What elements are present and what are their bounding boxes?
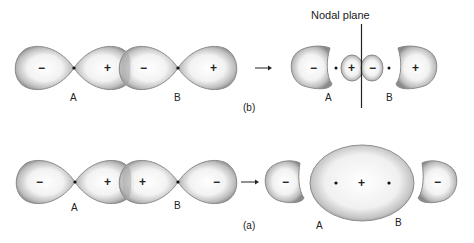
nodal-plane-label: Nodal plane	[311, 9, 370, 21]
sign: +	[104, 175, 111, 189]
atom-label-b: B	[174, 92, 181, 103]
sign: +	[358, 176, 365, 190]
nucleus-b	[387, 181, 390, 184]
sign: +	[139, 175, 146, 189]
nucleus-b	[176, 180, 179, 183]
sign: +	[104, 61, 111, 75]
sign: +	[348, 61, 355, 75]
panel-b-result: Nodal plane − + − + A B (b)	[243, 9, 437, 113]
atom-label-b: B	[174, 200, 181, 211]
nucleus-a	[335, 67, 338, 70]
nucleus-b	[176, 66, 179, 69]
lobe-a-left	[16, 160, 75, 203]
sign: −	[213, 175, 220, 189]
panel-b-input: − + − + A B	[15, 46, 237, 103]
panel-label-a: (a)	[243, 220, 255, 231]
lobe-b-right	[178, 46, 237, 89]
arrow-right-icon	[241, 180, 259, 185]
sign: +	[210, 61, 217, 75]
lobe-b-right	[178, 160, 237, 203]
nucleus-a	[334, 181, 337, 184]
panel-label-b: (b)	[243, 102, 255, 113]
sign: −	[38, 61, 45, 75]
sign: −	[140, 61, 147, 75]
atom-label-a: A	[70, 92, 77, 103]
panel-a-input: − + + − A B	[16, 160, 237, 213]
sign: −	[36, 175, 43, 189]
nucleus-b	[388, 67, 391, 70]
atom-label-b: B	[395, 217, 402, 228]
nucleus-a	[73, 180, 76, 183]
atom-label-b: B	[386, 92, 393, 103]
atom-label-a: A	[325, 92, 332, 103]
atom-label-a: A	[71, 202, 78, 213]
sign: +	[412, 61, 419, 75]
orbital-diagram: − + − + A B Nodal plane − + − + A B (b)	[0, 0, 474, 243]
atom-label-a: A	[316, 220, 323, 231]
arrow-right-icon	[255, 66, 272, 71]
panel-a-result: − + − A B (a)	[243, 145, 457, 231]
sign: −	[369, 61, 376, 75]
sign: −	[282, 175, 289, 189]
nucleus-a	[72, 66, 75, 69]
sign: −	[434, 175, 441, 189]
sign: −	[310, 61, 317, 75]
